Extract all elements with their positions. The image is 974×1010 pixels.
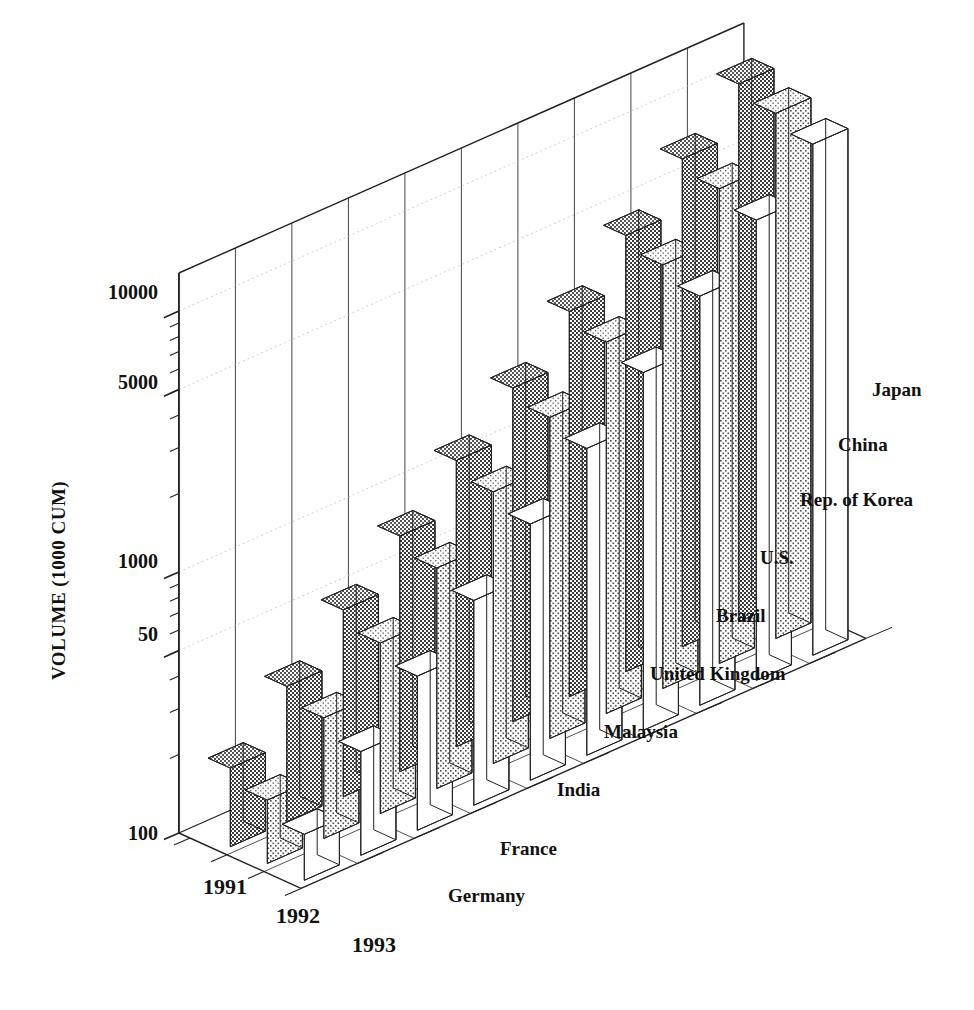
y-minor-tick-15 xyxy=(170,323,179,327)
y-minor-tick-2 xyxy=(170,676,179,680)
bar-front-face xyxy=(813,129,848,656)
year-tick-1 xyxy=(211,855,227,862)
y-tick-label-10000: 10000 xyxy=(62,281,158,304)
y-minor-tick-5 xyxy=(170,612,179,616)
year-label-1993: 1993 xyxy=(352,932,396,958)
y-minor-tick-8 xyxy=(170,494,179,498)
category-label-japan: Japan xyxy=(872,379,922,401)
y-minor-tick-4 xyxy=(170,630,179,634)
category-label-india: India xyxy=(557,779,600,801)
category-label-china: China xyxy=(838,434,888,456)
category-label-malaysia: Malaysia xyxy=(604,721,678,743)
year-label-1991: 1991 xyxy=(203,874,247,900)
y-minor-tick-9 xyxy=(170,448,179,452)
year-tick-0 xyxy=(174,838,190,845)
category-leader-9 xyxy=(866,627,892,638)
bar-front-face xyxy=(230,753,265,847)
category-label-brazil: Brazil xyxy=(716,605,766,627)
category-label-united-kingdom: United Kingdom xyxy=(650,663,786,685)
y-minor-tick-7 xyxy=(170,584,179,588)
y-major-tick-2 xyxy=(164,572,179,579)
bar-front-face xyxy=(287,671,322,822)
category-label-france: France xyxy=(500,838,557,860)
y-minor-tick-3 xyxy=(170,651,179,655)
y-tick-label-100: 100 xyxy=(62,822,158,845)
y-major-tick-4 xyxy=(164,311,179,318)
category-label-rep-of-korea: Rep. of Korea xyxy=(800,489,913,511)
y-tick-label-50: 50 xyxy=(62,623,158,646)
y-minor-tick-12 xyxy=(170,369,179,373)
y-tick-label-5000: 5000 xyxy=(62,371,158,394)
y-major-tick-0 xyxy=(164,833,179,840)
y-minor-tick-14 xyxy=(170,336,179,340)
year-tick-3 xyxy=(285,888,301,895)
y-tick-label-1000: 1000 xyxy=(62,550,158,573)
y-minor-tick-1 xyxy=(170,709,179,713)
y-axis xyxy=(164,273,179,840)
year-tick-2 xyxy=(248,872,264,879)
y-minor-tick-13 xyxy=(170,352,179,356)
category-label-germany: Germany xyxy=(448,885,525,907)
year-label-1992: 1992 xyxy=(276,903,320,929)
y-axis-title: VOLUME (1000 CUM) xyxy=(48,481,70,680)
y-minor-tick-10 xyxy=(170,415,179,419)
chart-canvas: VOLUME (1000 CUM) 10000 5000 1000 50 100… xyxy=(0,0,974,1010)
y-minor-tick-0 xyxy=(170,754,179,758)
category-label-us: U.S. xyxy=(760,547,794,569)
y-minor-tick-11 xyxy=(170,390,179,394)
y-minor-tick-6 xyxy=(170,597,179,601)
